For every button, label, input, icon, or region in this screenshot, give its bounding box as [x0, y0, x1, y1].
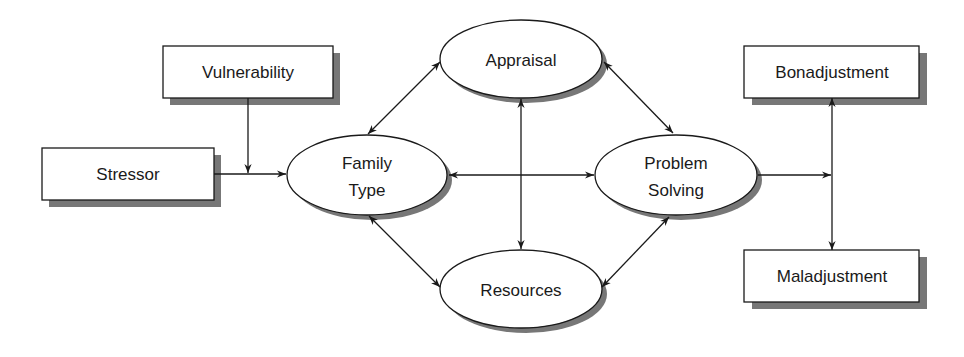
bonadjustment-node: Bonadjustment [744, 46, 927, 105]
vulnerability-node: Vulnerability [163, 46, 340, 105]
problem-solving-label-line2: Solving [648, 181, 704, 200]
resources-node: Resources [440, 250, 607, 333]
edge-family-type-resources [369, 216, 440, 287]
resources-label: Resources [480, 281, 561, 300]
family-type-label-line2: Type [349, 181, 386, 200]
appraisal-label: Appraisal [486, 51, 557, 70]
edge-resources-problem-solving [602, 217, 669, 287]
vulnerability-label: Vulnerability [202, 63, 294, 82]
bonadjustment-label: Bonadjustment [775, 63, 889, 82]
appraisal-node: Appraisal [440, 20, 607, 103]
stressor-label: Stressor [96, 165, 160, 184]
maladjustment-node: Maladjustment [744, 250, 927, 309]
problem-solving-node: Problem Solving [595, 135, 762, 220]
family-type-label-line1: Family [342, 154, 393, 173]
edge-family-type-appraisal [368, 62, 440, 134]
stressor-node: Stressor [42, 148, 221, 207]
edge-appraisal-problem-solving [604, 62, 673, 133]
family-stress-model-diagram: Vulnerability Stressor Bonadjustment Mal… [0, 0, 964, 357]
maladjustment-label: Maladjustment [777, 267, 888, 286]
family-type-node: Family Type [287, 135, 452, 220]
problem-solving-label-line1: Problem [644, 154, 707, 173]
